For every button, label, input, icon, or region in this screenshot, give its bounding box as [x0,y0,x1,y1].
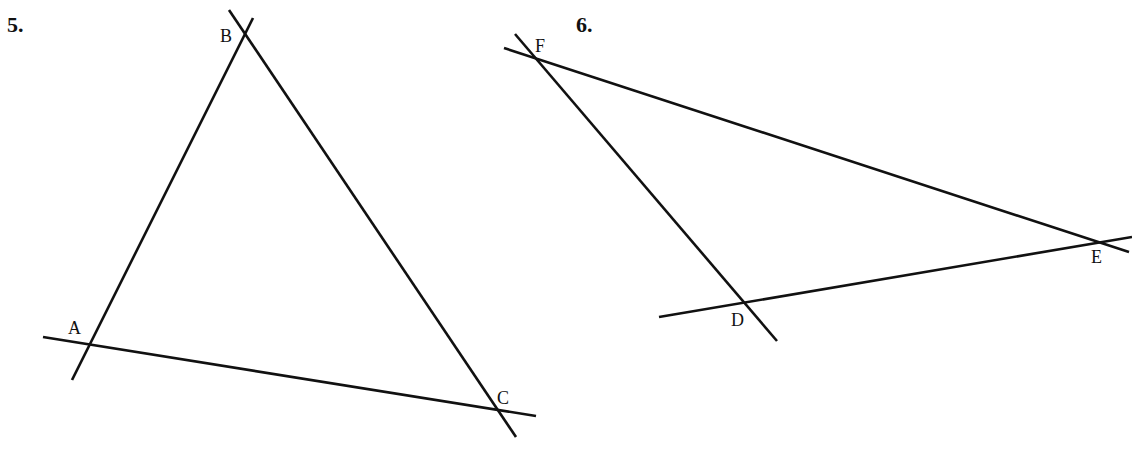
line-fe [504,48,1129,252]
line-fd [515,34,777,341]
line-ac [43,337,536,416]
vertex-label-c: C [497,388,509,409]
vertex-label-b: B [220,26,232,47]
vertex-label-f: F [535,36,545,57]
problem-number-5: 5. [7,12,24,38]
triangle-abc [43,10,536,437]
vertex-label-e: E [1091,247,1102,268]
diagram-svg [0,0,1132,449]
vertex-label-d: D [731,310,744,331]
vertex-label-a: A [68,318,81,339]
line-de [659,237,1132,317]
geometry-worksheet: 5. B A C 6. F D E [0,0,1132,449]
problem-number-6: 6. [576,12,593,38]
triangle-def [504,34,1132,341]
line-ab [72,18,253,380]
